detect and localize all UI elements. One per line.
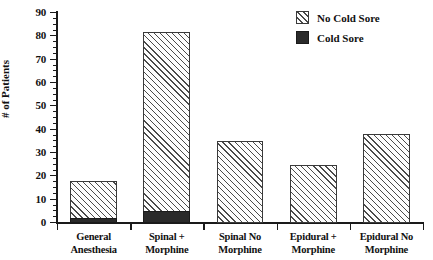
x-axis-label-line: Spinal + [130, 231, 203, 244]
y-tick-major: 0 [50, 222, 57, 223]
stacked-bar[interactable] [70, 181, 117, 223]
y-tick-major: 20 [50, 175, 57, 176]
y-axis-title: # of Patients [0, 60, 11, 118]
y-tick-label: 0 [41, 216, 46, 228]
x-axis-label: Epidural +Morphine [277, 231, 350, 256]
legend-item[interactable]: No Cold Sore [296, 11, 380, 24]
y-tick-label: 40 [35, 122, 46, 134]
x-axis-label-line: Spinal No [203, 231, 276, 244]
y-tick-label: 50 [35, 99, 46, 111]
y-tick-major: 40 [50, 129, 57, 130]
x-axis-label-line: Morphine [130, 244, 203, 257]
x-axis-label-line: Morphine [350, 244, 423, 257]
y-tick-major: 10 [50, 199, 57, 200]
bar-segment-no-cold-sore[interactable] [70, 181, 117, 218]
x-tick [423, 223, 424, 230]
x-axis-label-line: Morphine [203, 244, 276, 257]
x-tick [350, 223, 351, 230]
x-tick [130, 223, 131, 230]
legend-item[interactable]: Cold Sore [296, 31, 380, 44]
x-axis-label-line: Morphine [277, 244, 350, 257]
x-axis-label: GeneralAnesthesia [57, 231, 130, 256]
bar-chart: # of Patients 0102030405060708090 Genera… [0, 0, 433, 260]
legend-swatch-hatched-icon [296, 11, 309, 24]
bar-segment-no-cold-sore[interactable] [290, 165, 337, 223]
x-axis-label-line: Anesthesia [57, 244, 130, 257]
x-tick [203, 223, 204, 230]
legend-swatch-solid-icon [296, 31, 309, 44]
chart-legend: No Cold SoreCold Sore [296, 11, 380, 51]
y-tick-label: 60 [35, 76, 46, 88]
bar-segment-no-cold-sore[interactable] [143, 32, 190, 212]
y-tick-major: 90 [50, 12, 57, 13]
y-tick-label: 70 [35, 52, 46, 64]
x-axis-labels: GeneralAnesthesiaSpinal +MorphineSpinal … [57, 231, 423, 256]
x-axis-ticks [57, 223, 423, 230]
stacked-bar[interactable] [143, 32, 190, 223]
y-tick-label: 10 [35, 192, 46, 204]
bar-group [203, 13, 276, 223]
legend-label: No Cold Sore [317, 12, 380, 24]
bar-group [130, 13, 203, 223]
x-axis-label: Spinal NoMorphine [203, 231, 276, 256]
x-axis-label: Spinal +Morphine [130, 231, 203, 256]
y-tick-major: 60 [50, 82, 57, 83]
stacked-bar[interactable] [290, 165, 337, 223]
y-tick-major: 80 [50, 35, 57, 36]
y-tick-label: 80 [35, 29, 46, 41]
bar-segment-no-cold-sore[interactable] [217, 141, 264, 223]
stacked-bar[interactable] [217, 141, 264, 223]
y-tick-major: 50 [50, 105, 57, 106]
y-tick-major: 30 [50, 152, 57, 153]
y-tick-label: 90 [35, 6, 46, 18]
x-axis-label-line: Epidural + [277, 231, 350, 244]
x-tick [277, 223, 278, 230]
stacked-bar[interactable] [363, 134, 410, 223]
y-tick-label: 30 [35, 146, 46, 158]
y-tick-major: 70 [50, 59, 57, 60]
bar-segment-no-cold-sore[interactable] [363, 134, 410, 223]
legend-label: Cold Sore [317, 32, 364, 44]
bar-segment-cold-sore[interactable] [143, 211, 190, 223]
y-tick-label: 20 [35, 169, 46, 181]
bar-group [57, 13, 130, 223]
x-axis-label-line: Epidural No [350, 231, 423, 244]
x-axis-label-line: General [57, 231, 130, 244]
x-tick [57, 223, 58, 230]
x-axis-label: Epidural NoMorphine [350, 231, 423, 256]
